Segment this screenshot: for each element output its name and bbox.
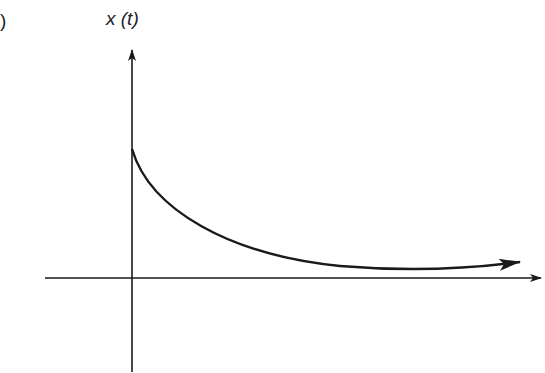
exponential-decay-diagram xyxy=(0,0,545,373)
decay-curve xyxy=(132,149,520,269)
